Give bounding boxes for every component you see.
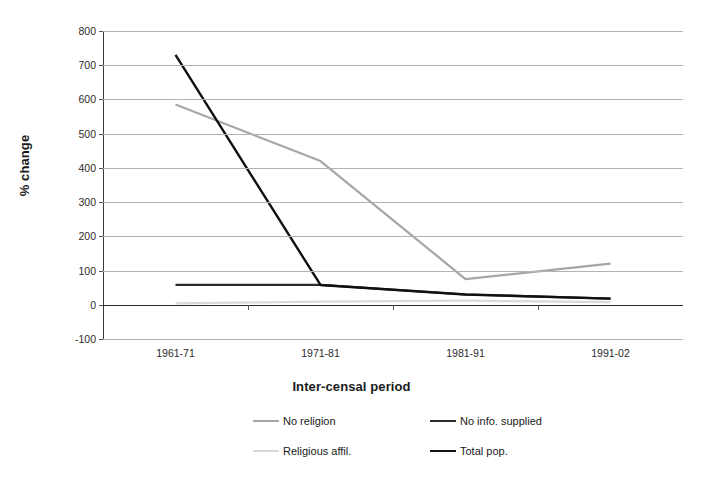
y-tick-label: 400 (52, 163, 96, 173)
y-tick-mark (99, 339, 103, 340)
legend-item[interactable]: Total pop. (430, 445, 508, 457)
gridline (103, 236, 683, 237)
y-tick-label: 600 (52, 94, 96, 104)
y-tick-label: 500 (52, 129, 96, 139)
y-tick-label: 100 (52, 266, 96, 276)
gridline (103, 168, 683, 169)
legend-label: No info. supplied (460, 415, 542, 427)
gridline (103, 31, 683, 32)
y-tick-label: -100 (52, 334, 96, 344)
x-tick-label: 1971-81 (271, 347, 371, 359)
legend-item[interactable]: No religion (253, 415, 336, 427)
x-tick-mark (538, 305, 539, 310)
y-tick-mark (99, 305, 103, 306)
series-line (176, 55, 611, 299)
y-tick-mark (99, 99, 103, 100)
x-tick-label: 1961-71 (126, 347, 226, 359)
gridline (103, 99, 683, 100)
x-tick-mark (393, 305, 394, 310)
legend-label: Religious affil. (283, 445, 351, 457)
y-tick-mark (99, 236, 103, 237)
y-tick-label: 300 (52, 197, 96, 207)
gridline (103, 202, 683, 203)
y-axis-title: % change (17, 121, 32, 211)
x-tick-label: 1991-02 (561, 347, 661, 359)
series-line (176, 105, 611, 280)
y-tick-label: 700 (52, 60, 96, 70)
x-axis-title: Inter-censal period (0, 379, 703, 394)
legend-label: No religion (283, 415, 336, 427)
plot-area (103, 31, 683, 339)
legend-item[interactable]: No info. supplied (430, 415, 542, 427)
y-tick-mark (99, 65, 103, 66)
y-tick-mark (99, 168, 103, 169)
y-tick-label: 200 (52, 231, 96, 241)
series-layer (103, 31, 683, 339)
legend-swatch (253, 450, 279, 452)
gridline (103, 271, 683, 272)
gridline (103, 134, 683, 135)
legend-swatch (430, 420, 456, 422)
series-line (176, 301, 611, 304)
chart-container: % change 8007006005004003002001000-100 1… (0, 0, 703, 483)
legend-label: Total pop. (460, 445, 508, 457)
y-tick-mark (99, 202, 103, 203)
gridline (103, 339, 683, 340)
y-tick-label: 800 (52, 26, 96, 36)
y-tick-mark (99, 134, 103, 135)
x-tick-mark (248, 305, 249, 310)
chart-legend: No religionNo info. suppliedReligious af… (0, 415, 703, 475)
legend-swatch (430, 450, 456, 452)
legend-item[interactable]: Religious affil. (253, 445, 351, 457)
x-tick-label: 1981-91 (416, 347, 516, 359)
legend-swatch (253, 420, 279, 422)
gridline (103, 65, 683, 66)
y-tick-label: 0 (52, 300, 96, 310)
y-tick-mark (99, 271, 103, 272)
y-tick-mark (99, 31, 103, 32)
y-axis-tick-labels: 8007006005004003002001000-100 (52, 0, 96, 483)
